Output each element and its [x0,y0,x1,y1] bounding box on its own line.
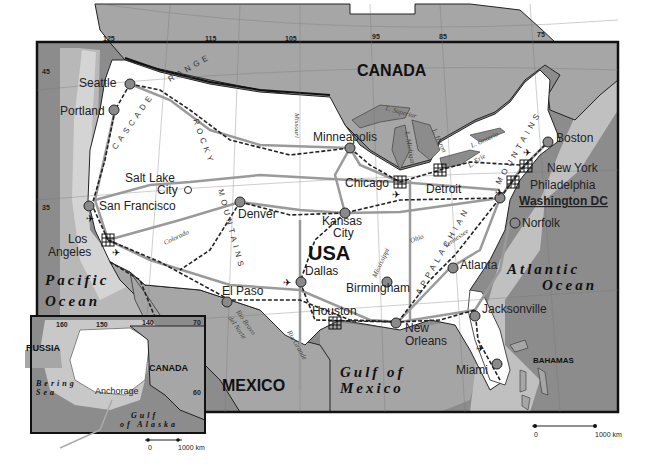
city-boston: Boston [556,131,593,145]
label-alaska-gulf: Gulf [131,411,158,420]
inset-scale-start: 0 [148,444,152,451]
label-russia: RUSSIA [26,343,61,353]
inset-lon-160: 160 [56,321,68,328]
usa-map: ✈ ✈ ✈ ✈ ✈ ✈ ✈ 125 115 105 95 85 75 45 35… [0,0,654,469]
city-kansas-2: City [333,226,354,240]
city-washington-dc: Washington DC [519,194,608,208]
city-philadelphia: Philadelphia [530,178,596,192]
city-salt-lake-2: City [157,183,178,197]
label-mexico: MEXICO [222,377,285,394]
label-bahamas: BAHAMAS [533,356,575,365]
label-bering-sea: Sea [36,388,57,397]
lon-125: 125 [103,35,115,42]
city-birmingham: Birmingham [346,281,410,295]
city-portland: Portland [60,104,105,118]
city-angeles: Angeles [48,245,91,259]
lat-45: 45 [42,68,50,75]
lon-95: 95 [372,33,380,40]
city-los: Los [68,232,87,246]
svg-text:✈: ✈ [523,147,531,158]
inset-scale-end: 1000 km [178,444,205,451]
city-jacksonville: Jacksonville [482,302,547,316]
inset-lon-70: 70 [193,319,201,326]
label-pacific-ocean: Ocean [45,293,100,309]
city-new: New [405,321,429,335]
scale-bar: 0 1000 km [532,424,622,438]
lon-85: 85 [439,33,447,40]
city-chicago: Chicago [345,176,389,190]
label-atlantic-ocean: Ocean [542,277,597,293]
label-usa: USA [308,242,350,264]
city-houston: Houston [312,304,357,318]
lon-105: 105 [285,35,297,42]
label-canada-inset: CANADA [149,363,188,373]
label-missouri: Missouri [293,112,301,138]
city-el-paso: El Paso [222,284,264,298]
inset-lon-150: 150 [96,321,108,328]
svg-text:✈: ✈ [495,187,503,198]
city-denver: Denver [238,207,277,221]
label-gulf-mexico: Mexico [339,380,404,396]
inset-lat-60: 60 [193,389,201,396]
inset-lon-140: 140 [142,319,154,326]
city-norfolk: Norfolk [522,216,561,230]
label-gulf: Gulf of [340,364,406,380]
lat-35: 35 [42,204,50,211]
label-pacific: Pacific [45,272,109,288]
city-seattle: Seattle [79,76,117,90]
svg-text:✈: ✈ [86,213,94,224]
city-san-francisco: San Francisco [99,199,176,213]
city-detroit: Detroit [426,182,462,196]
city-orleans: Orleans [405,334,447,348]
lon-115: 115 [205,35,216,42]
svg-text:✈: ✈ [283,277,291,288]
label-bering: Bering [35,379,77,388]
svg-text:✈: ✈ [112,247,120,258]
city-new-york: New York [547,161,599,175]
city-minneapolis: Minneapolis [313,130,377,144]
label-canada: CANADA [357,62,427,79]
city-dallas: Dallas [305,264,338,278]
svg-text:✈: ✈ [476,343,484,354]
city-atlanta: Atlanta [460,258,498,272]
label-atlantic: Atlantic [506,261,580,277]
city-miami: Miami [456,363,488,377]
scale-end: 1000 km [595,431,622,438]
svg-text:✈: ✈ [392,189,400,200]
lon-75: 75 [537,31,545,38]
inset-scale-bar: 0 1000 km [145,438,205,451]
city-anchorage: Anchorage [95,386,139,396]
scale-start: 0 [534,431,538,438]
label-alaska-gulf-2: of Alaska [120,420,178,429]
